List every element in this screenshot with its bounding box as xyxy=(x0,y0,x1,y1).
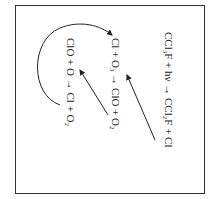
arrow-clo-to-regeneration xyxy=(80,70,108,115)
arrow-photolysis-to-ozone xyxy=(127,75,155,140)
arrow-curved-cycle xyxy=(38,24,113,105)
reaction-arrows xyxy=(0,0,216,199)
